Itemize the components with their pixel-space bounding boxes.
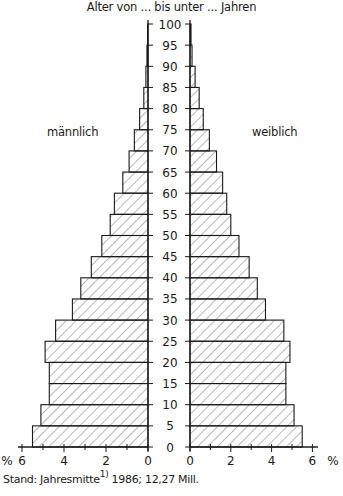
age-tick-label: 45 — [162, 250, 177, 264]
age-tick-label: 95 — [162, 39, 177, 53]
age-tick-label: 30 — [162, 314, 177, 328]
female-bar-80-85 — [190, 87, 199, 108]
age-tick-label: 60 — [162, 187, 177, 201]
male-bar-75-80 — [140, 109, 148, 130]
male-bar-5-10 — [41, 405, 148, 426]
female-bar-0-5 — [190, 426, 302, 447]
female-bar-45-50 — [190, 236, 239, 257]
x-tick-left: 2 — [102, 454, 110, 468]
age-tick-label: 0 — [166, 441, 174, 455]
age-tick-label: 40 — [162, 271, 177, 285]
female-bar-55-60 — [190, 193, 227, 214]
female-bar-20-25 — [190, 341, 290, 362]
male-bar-65-70 — [129, 151, 148, 172]
x-unit-left: % — [1, 454, 12, 468]
female-bar-70-75 — [190, 130, 209, 151]
female-bar-10-15 — [190, 384, 286, 405]
male-bar-20-25 — [45, 341, 148, 362]
male-bar-25-30 — [56, 320, 148, 341]
footer-prefix: Stand: Jahresmitte — [3, 473, 100, 486]
age-tick-label: 20 — [162, 356, 177, 370]
age-tick-label: 5 — [166, 419, 174, 433]
male-bar-45-50 — [102, 236, 148, 257]
male-bar-70-75 — [134, 130, 148, 151]
female-bar-85-90 — [190, 66, 195, 87]
x-tick-left: 6 — [18, 454, 26, 468]
female-bar-35-40 — [190, 278, 257, 299]
male-bar-60-65 — [123, 172, 148, 193]
age-tick-label: 75 — [162, 123, 177, 137]
male-bar-15-20 — [49, 362, 148, 383]
female-bar-60-65 — [190, 172, 223, 193]
female-bar-15-20 — [190, 362, 286, 383]
female-label: weiblich — [252, 125, 297, 139]
x-tick-right: 0 — [186, 454, 194, 468]
age-tick-label: 15 — [162, 377, 177, 391]
age-tick-label: 50 — [162, 229, 177, 243]
population-pyramid-chart: 0510152025303540455055606570758085909510… — [0, 0, 343, 496]
footer-suffix: 1986; 12,27 Mill. — [108, 473, 198, 486]
female-bar-5-10 — [190, 405, 294, 426]
x-tick-left: 0 — [144, 454, 152, 468]
male-bar-40-45 — [91, 257, 148, 278]
x-tick-right: 4 — [268, 454, 276, 468]
x-tick-right: 6 — [309, 454, 317, 468]
x-tick-left: 4 — [60, 454, 68, 468]
age-tick-label: 10 — [162, 398, 177, 412]
age-tick-label: 80 — [162, 102, 177, 116]
x-tick-right: 2 — [227, 454, 235, 468]
age-tick-label: 35 — [162, 292, 177, 306]
female-bars — [190, 24, 302, 447]
male-bar-30-35 — [72, 299, 148, 320]
male-bar-10-15 — [49, 384, 148, 405]
x-unit-right: % — [327, 454, 338, 468]
female-bar-65-70 — [190, 151, 217, 172]
age-tick-label: 90 — [162, 60, 177, 74]
female-bar-50-55 — [190, 214, 231, 235]
male-bar-35-40 — [81, 278, 148, 299]
footnote-marker: 1) — [100, 469, 109, 479]
male-bar-0-5 — [33, 426, 149, 447]
female-bar-40-45 — [190, 257, 249, 278]
age-tick-label: 85 — [162, 81, 177, 95]
age-tick-label: 25 — [162, 335, 177, 349]
age-tick-label: 55 — [162, 208, 177, 222]
male-bar-50-55 — [110, 214, 148, 235]
female-bar-25-30 — [190, 320, 284, 341]
footer-note: Stand: Jahresmitte1) 1986; 12,27 Mill. — [3, 470, 199, 486]
male-bar-55-60 — [114, 193, 148, 214]
age-tick-label: 70 — [162, 144, 177, 158]
male-label: männlich — [47, 125, 98, 139]
female-bar-75-80 — [190, 109, 203, 130]
age-tick-label: 100 — [159, 18, 182, 32]
female-bar-30-35 — [190, 299, 265, 320]
age-tick-label: 65 — [162, 166, 177, 180]
male-bars — [33, 24, 149, 447]
